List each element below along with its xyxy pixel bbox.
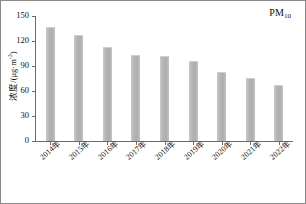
y-axis-tick-label: 120 (16, 35, 29, 46)
y-axis-tick-label: 60 (21, 85, 30, 96)
y-axis-tick-label: 30 (21, 110, 30, 121)
x-axis-tick-label: 2022年 (268, 139, 293, 162)
bar (189, 61, 198, 141)
bar-slot (207, 17, 236, 141)
x-label-slot: 2016年 (92, 144, 121, 194)
y-axis-title: 浓度/(μg·m-3) (4, 11, 16, 141)
bar-slot (179, 17, 208, 141)
bar (246, 78, 255, 141)
x-axis-tick-label: 2021年 (239, 139, 264, 162)
x-label-slot: 2017年 (121, 144, 150, 194)
y-axis-title-superscript: -3 (7, 54, 13, 59)
bar (274, 85, 283, 141)
x-label-slot: 2015年 (64, 144, 93, 194)
x-label-slot: 2014年 (35, 144, 64, 194)
x-axis-tick-label: 2017年 (125, 139, 150, 162)
x-label-slot: 2020年 (207, 144, 236, 194)
bar (160, 56, 169, 141)
x-axis-tick-label: 2016年 (96, 139, 121, 162)
y-axis-tick-mark (32, 141, 36, 142)
x-label-slot: 2019年 (178, 144, 207, 194)
bar-series (36, 17, 293, 141)
x-axis-tick-label: 2018年 (153, 139, 178, 162)
x-axis-labels: 2014年2015年2016年2017年2018年2019年2020年2021年… (35, 144, 293, 194)
x-axis-tick-label: 2019年 (182, 139, 207, 162)
bar (74, 35, 83, 141)
bar-slot (122, 17, 151, 141)
x-axis-tick-label: 2020年 (211, 139, 236, 162)
x-axis-tick-label: 2014年 (38, 139, 63, 162)
bar (131, 55, 140, 141)
bar-slot (65, 17, 94, 141)
bar-slot (236, 17, 265, 141)
y-axis-title-tail: ) (8, 51, 18, 54)
bar-slot (150, 17, 179, 141)
y-axis-title-base: 浓度/(μg·m (8, 59, 18, 100)
x-label-slot: 2018年 (150, 144, 179, 194)
y-axis-tick-label: 150 (16, 10, 29, 21)
y-axis-tick-label: 90 (21, 60, 30, 71)
plot-area: 0306090120150 (35, 17, 293, 142)
pm10-bar-chart-figure: PM10 浓度/(μg·m-3) 0306090120150 2014年2015… (0, 0, 306, 204)
bar-slot (93, 17, 122, 141)
x-label-slot: 2022年 (264, 144, 293, 194)
bar-slot (265, 17, 294, 141)
bar (217, 72, 226, 141)
y-axis-tick-label: 0 (25, 135, 29, 146)
bar (46, 27, 55, 141)
x-label-slot: 2021年 (236, 144, 265, 194)
x-axis-tick-label: 2015年 (67, 139, 92, 162)
bar (103, 47, 112, 141)
bar-slot (36, 17, 65, 141)
